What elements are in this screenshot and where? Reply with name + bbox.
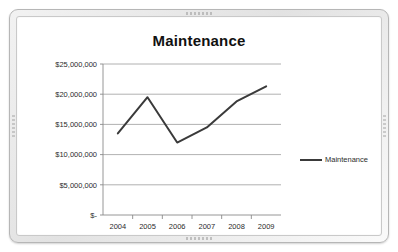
x-axis-tick-label: 2009 <box>258 222 275 231</box>
y-axis-tick-label: $- <box>90 211 97 220</box>
gridlines <box>103 64 281 185</box>
y-axis-tick-label: $15,000,000 <box>55 120 97 129</box>
series-line-maintenance <box>118 86 266 142</box>
legend-item-label: Maintenance <box>325 155 368 164</box>
chart-plot-svg: $-$5,000,000$10,000,000$15,000,000$20,00… <box>17 17 383 237</box>
x-axis-tick-label: 2004 <box>109 222 126 231</box>
frame-marking-right <box>383 115 386 137</box>
y-axis-tick-label: $20,000,000 <box>55 90 97 99</box>
data-series <box>118 86 266 142</box>
whiteboard-frame: Maintenance $-$5,000,000$10,000,000$15,0… <box>9 9 389 243</box>
x-axis-tick-labels: 200420052006200720082009 <box>109 222 274 231</box>
y-axis-tick-labels: $-$5,000,000$10,000,000$15,000,000$20,00… <box>55 60 97 220</box>
chart-legend: Maintenance <box>300 155 368 164</box>
x-axis-tick-label: 2005 <box>139 222 156 231</box>
frame-marking-top <box>186 12 212 15</box>
axes <box>100 64 281 219</box>
x-axis-tick-label: 2008 <box>228 222 245 231</box>
x-axis-tick-label: 2006 <box>169 222 186 231</box>
frame-marking-left <box>12 115 15 137</box>
line-chart: Maintenance $-$5,000,000$10,000,000$15,0… <box>17 17 381 235</box>
y-axis-tick-label: $5,000,000 <box>59 181 97 190</box>
x-axis-tick-label: 2007 <box>198 222 215 231</box>
y-axis-tick-label: $10,000,000 <box>55 150 97 159</box>
frame-marking-bottom <box>186 237 212 240</box>
legend-line-swatch <box>300 159 322 161</box>
whiteboard-surface: Maintenance $-$5,000,000$10,000,000$15,0… <box>16 16 382 236</box>
y-axis-tick-label: $25,000,000 <box>55 60 97 69</box>
